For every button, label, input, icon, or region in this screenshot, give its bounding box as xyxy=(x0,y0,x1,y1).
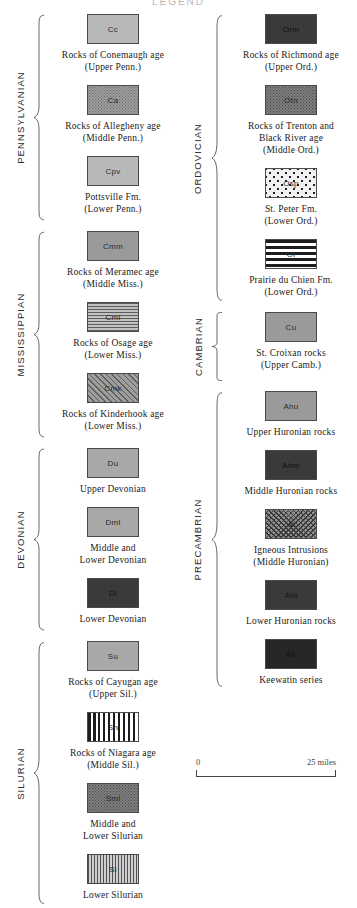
legend-entry-du[interactable]: DuUpper Devonian xyxy=(48,448,178,505)
legend-entry-cpv[interactable]: CpvPottsville Fm.(Lower Penn.) xyxy=(48,156,178,225)
legend-swatch-cmm[interactable]: Cmm xyxy=(87,231,139,261)
legend-swatch-cu[interactable]: Cu xyxy=(265,312,317,342)
legend-entry-caption: Middle andLower Silurian xyxy=(48,818,178,842)
legend-swatch-code: Ol xyxy=(287,250,296,259)
legend-swatch-ahm[interactable]: Ahm xyxy=(265,450,317,480)
legend-entry-caption: Upper Devonian xyxy=(48,483,178,495)
legend-swatch-cml[interactable]: Cml xyxy=(87,302,139,332)
legend-swatch-code: Cmm xyxy=(103,242,123,251)
legend-entry-caption: Rocks of Trenton andBlack River age(Midd… xyxy=(226,120,356,156)
era-entry-list: CmmRocks of Meramec age(Middle Miss.)Cml… xyxy=(48,231,178,442)
legend-entry-cc[interactable]: CcRocks of Conemaugh age(Upper Penn.) xyxy=(48,14,178,83)
legend-caption-line: Lower Silurian xyxy=(48,830,178,842)
legend-entry-caption: Keewatin series xyxy=(226,674,356,686)
era-label-text: PENNSYLVANIAN xyxy=(15,71,26,164)
legend-swatch-sl[interactable]: Sl xyxy=(87,854,139,884)
legend-entry-ai[interactable]: AiIgneous Intrusions(Middle Huronian) xyxy=(226,509,356,578)
legend-swatch-ak[interactable]: Ak xyxy=(265,639,317,669)
era-label-text: ORDOVICIAN xyxy=(193,122,204,193)
legend-entry-dml[interactable]: DmlMiddle andLower Devonian xyxy=(48,507,178,576)
era-group-cambrian: CAMBRIANCuSt. Croixan rocks(Upper Camb.) xyxy=(178,312,356,381)
legend-entry-caption: Rocks of Osage age(Lower Miss.) xyxy=(48,337,178,361)
legend-swatch-code: Ahm xyxy=(282,461,299,470)
legend-caption-line: Black River age xyxy=(226,132,356,144)
legend-caption-line: Rocks of Conemaugh age xyxy=(48,49,178,61)
legend-caption-line: Upper Devonian xyxy=(48,483,178,495)
legend-entry-ahl[interactable]: AhlLower Huronian rocks xyxy=(226,580,356,637)
legend-entry-ahu[interactable]: AhuUpper Huronian rocks xyxy=(226,391,356,448)
legend-swatch-su[interactable]: Su xyxy=(87,641,139,671)
legend-entry-ahm[interactable]: AhmMiddle Huronian rocks xyxy=(226,450,356,507)
legend-swatch-sn[interactable]: Sn xyxy=(87,712,139,742)
era-group-devonian: DEVONIANDuUpper DevonianDmlMiddle andLow… xyxy=(0,448,178,631)
legend-swatch-dl[interactable]: Dl xyxy=(87,578,139,608)
legend-entry-su[interactable]: SuRocks of Cayugan age(Upper Sil.) xyxy=(48,641,178,710)
legend-entry-caption: Middle andLower Devonian xyxy=(48,542,178,566)
legend-caption-line: Rocks of Cayugan age xyxy=(48,676,178,688)
legend-caption-line: Lower Silurian xyxy=(48,889,178,901)
legend-swatch-cc[interactable]: Cc xyxy=(87,14,139,44)
legend-swatch-otn[interactable]: Otn xyxy=(265,85,317,115)
legend-swatch-ol[interactable]: Ol xyxy=(265,239,317,269)
legend-caption-line: St. Croixan rocks xyxy=(226,347,356,359)
era-brace-icon xyxy=(211,14,223,302)
legend-entry-sn[interactable]: SnRocks of Niagara age(Middle Sil.) xyxy=(48,712,178,781)
legend-caption-line: (Lower Miss.) xyxy=(48,349,178,361)
era-label-text: CAMBRIAN xyxy=(193,317,204,376)
legend-entry-cmk[interactable]: CmkRocks of Kinderhook age(Lower Miss.) xyxy=(48,373,178,442)
legend-swatch-osp[interactable]: Osp xyxy=(265,168,317,198)
era-brace-icon xyxy=(211,391,223,688)
legend-entry-caption: Upper Huronian rocks xyxy=(226,426,356,438)
legend-swatch-code: Sml xyxy=(106,794,121,803)
legend-column-right: ORDOVICIANOrmRocks of Richmond age(Upper… xyxy=(178,0,356,803)
legend-entry-otn[interactable]: OtnRocks of Trenton andBlack River age(M… xyxy=(226,85,356,166)
legend-caption-line: St. Peter Fm. xyxy=(226,203,356,215)
legend-swatch-code: Ai xyxy=(287,520,295,529)
era-group-mississippian: MISSISSIPPIANCmmRocks of Meramec age(Mid… xyxy=(0,231,178,438)
legend-entry-orm[interactable]: OrmRocks of Richmond age(Upper Ord.) xyxy=(226,14,356,83)
legend-caption-line: Rocks of Richmond age xyxy=(226,49,356,61)
legend-swatch-ca[interactable]: Ca xyxy=(87,85,139,115)
legend-swatch-code: Ahl xyxy=(285,591,297,600)
legend-swatch-cmk[interactable]: Cmk xyxy=(87,373,139,403)
legend-caption-line: Middle Huronian rocks xyxy=(226,485,356,497)
legend-entry-caption: Rocks of Richmond age(Upper Ord.) xyxy=(226,49,356,73)
legend-caption-line: (Lower Penn.) xyxy=(48,203,178,215)
era-group-ordovician: ORDOVICIANOrmRocks of Richmond age(Upper… xyxy=(178,14,356,302)
legend-swatch-sml[interactable]: Sml xyxy=(87,783,139,813)
legend-entry-cmm[interactable]: CmmRocks of Meramec age(Middle Miss.) xyxy=(48,231,178,300)
legend-entry-ol[interactable]: OlPrairie du Chien Fm.(Lower Ord.) xyxy=(226,239,356,308)
legend-entry-ak[interactable]: AkKeewatin series xyxy=(226,639,356,696)
legend-column-left: PENNSYLVANIANCcRocks of Conemaugh age(Up… xyxy=(0,0,178,803)
legend-entry-sml[interactable]: SmlMiddle andLower Silurian xyxy=(48,783,178,852)
era-label-precambrian: PRECAMBRIAN xyxy=(190,391,206,688)
scale-label-start: 0 xyxy=(196,757,200,767)
legend-caption-line: (Lower Ord.) xyxy=(226,286,356,298)
legend-entry-dl[interactable]: DlLower Devonian xyxy=(48,578,178,635)
legend-swatch-ai[interactable]: Ai xyxy=(265,509,317,539)
legend-swatch-ahu[interactable]: Ahu xyxy=(265,391,317,421)
legend-entry-ca[interactable]: CaRocks of Allegheny age(Middle Penn.) xyxy=(48,85,178,154)
era-label-cambrian: CAMBRIAN xyxy=(190,312,206,381)
era-group-precambrian: PRECAMBRIANAhuUpper Huronian rocksAhmMid… xyxy=(178,391,356,688)
legend-swatch-ahl[interactable]: Ahl xyxy=(265,580,317,610)
legend-swatch-cpv[interactable]: Cpv xyxy=(87,156,139,186)
era-label-ordovician: ORDOVICIAN xyxy=(190,14,206,302)
legend-caption-line: (Upper Sil.) xyxy=(48,688,178,700)
legend-entry-sl[interactable]: SlLower Silurian xyxy=(48,854,178,908)
legend-swatch-code: Ahu xyxy=(283,402,298,411)
legend-swatch-code: Orm xyxy=(283,25,299,34)
legend-swatch-code: Ak xyxy=(286,650,296,659)
legend-swatch-code: Cc xyxy=(108,25,118,34)
legend-swatch-code: Sl xyxy=(109,865,117,874)
scale-bar: 0 25 miles xyxy=(196,757,336,777)
legend-entry-osp[interactable]: OspSt. Peter Fm.(Lower Ord.) xyxy=(226,168,356,237)
legend-swatch-dml[interactable]: Dml xyxy=(87,507,139,537)
legend-entry-cml[interactable]: CmlRocks of Osage age(Lower Miss.) xyxy=(48,302,178,371)
legend-swatch-orm[interactable]: Orm xyxy=(265,14,317,44)
era-brace-icon xyxy=(33,448,45,631)
legend-caption-line: Igneous Intrusions xyxy=(226,544,356,556)
legend-swatch-du[interactable]: Du xyxy=(87,448,139,478)
legend-entry-cu[interactable]: CuSt. Croixan rocks(Upper Camb.) xyxy=(226,312,356,381)
legend-caption-line: Rocks of Allegheny age xyxy=(48,120,178,132)
